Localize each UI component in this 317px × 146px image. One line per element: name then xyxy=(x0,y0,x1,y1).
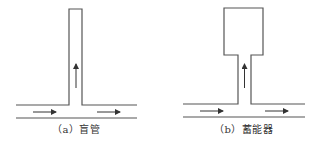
accumulator-outline xyxy=(183,8,305,104)
dead-end-pipe-diagram xyxy=(16,9,137,118)
accumulator-diagram xyxy=(183,8,305,117)
caption-a: （a）盲管 xyxy=(52,121,100,136)
caption-b: （b）蓄能器 xyxy=(214,121,273,136)
pipe-top-wall xyxy=(16,9,137,105)
